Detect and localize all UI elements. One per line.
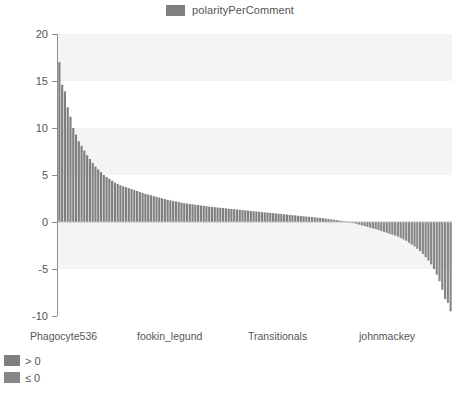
bar <box>205 206 207 222</box>
bar <box>425 222 427 257</box>
bar <box>61 85 63 222</box>
bar <box>364 222 366 226</box>
x-axis-label-phagocyte536: Phagocyte536 <box>30 330 97 342</box>
bar <box>305 217 307 222</box>
bar <box>164 199 166 222</box>
bar <box>75 135 77 222</box>
legend-swatch-nonpositive-icon <box>4 372 20 383</box>
bar <box>69 117 71 222</box>
bar <box>67 107 69 222</box>
legend-label-nonpositive: ≤ 0 <box>25 372 40 384</box>
bar <box>194 205 196 222</box>
bar <box>147 195 149 222</box>
y-axis-label-5: 5 <box>6 170 48 181</box>
bar <box>444 222 446 299</box>
bar <box>125 187 127 222</box>
bar <box>438 222 440 281</box>
bar <box>133 190 135 222</box>
bar <box>117 184 119 222</box>
bar <box>172 201 174 222</box>
bar <box>167 200 169 222</box>
y-axis-tick-5 <box>52 175 57 176</box>
legend-label-positive: > 0 <box>25 355 41 367</box>
legend-label-polarity: polarityPerComment <box>192 4 294 16</box>
bar <box>361 222 363 225</box>
bar <box>294 215 296 222</box>
bar <box>239 210 241 222</box>
y-axis-tick-15 <box>52 81 57 82</box>
bar <box>186 204 188 222</box>
bar <box>441 222 443 290</box>
bar <box>369 222 371 228</box>
y-axis-label-0: 0 <box>6 217 48 228</box>
bar <box>58 62 60 222</box>
bar <box>322 218 324 222</box>
bar <box>89 159 91 222</box>
bar <box>83 151 85 222</box>
bar <box>433 222 435 269</box>
bar <box>228 209 230 222</box>
bar <box>266 213 268 222</box>
bar <box>155 197 157 222</box>
bar <box>100 172 102 222</box>
bar <box>255 211 257 222</box>
bar <box>383 222 385 232</box>
y-axis-label-20: 20 <box>6 29 48 40</box>
bar <box>253 211 255 222</box>
bar <box>397 222 399 237</box>
y-axis-tick-20 <box>52 34 57 35</box>
bar <box>436 222 438 275</box>
bar <box>136 191 138 222</box>
bar <box>200 205 202 222</box>
bar <box>280 214 282 222</box>
bar <box>105 177 107 222</box>
bar <box>308 217 310 222</box>
y-axis-tick-0 <box>52 222 57 223</box>
bar <box>233 209 235 222</box>
x-axis-label-transitionals: Transitionals <box>248 330 307 342</box>
bar <box>211 207 213 222</box>
bar <box>247 211 249 222</box>
bar <box>230 209 232 222</box>
bar <box>178 202 180 222</box>
bar <box>325 219 327 222</box>
bar <box>283 214 285 222</box>
bar <box>250 211 252 222</box>
bar-series-polarity <box>58 34 452 316</box>
bar <box>380 222 382 231</box>
bar <box>264 212 266 222</box>
bar <box>366 222 368 227</box>
bar <box>419 222 421 251</box>
bar <box>158 198 160 222</box>
bar <box>78 141 80 222</box>
bar <box>203 206 205 222</box>
bar <box>183 203 185 222</box>
bar <box>413 222 415 246</box>
bar <box>400 222 402 238</box>
bar <box>377 222 379 230</box>
chart-legend-top: polarityPerComment <box>0 4 460 16</box>
bar <box>108 179 110 222</box>
y-axis-label-minus10: -10 <box>6 311 48 322</box>
bar <box>94 167 96 222</box>
bar <box>408 222 410 243</box>
bar <box>222 208 224 222</box>
bar <box>153 196 155 222</box>
bar <box>189 204 191 222</box>
bar <box>241 210 243 222</box>
bar <box>191 204 193 222</box>
bar <box>122 186 124 222</box>
bar <box>208 207 210 222</box>
bar <box>150 195 152 222</box>
bar <box>130 189 132 222</box>
bar <box>311 217 313 222</box>
bar <box>103 175 105 222</box>
bar <box>64 91 66 222</box>
bar <box>236 210 238 223</box>
bar <box>169 200 171 222</box>
bar <box>197 205 199 222</box>
bar <box>180 203 182 222</box>
bar <box>216 208 218 222</box>
bar <box>97 169 99 222</box>
y-axis-tick-10 <box>52 128 57 129</box>
